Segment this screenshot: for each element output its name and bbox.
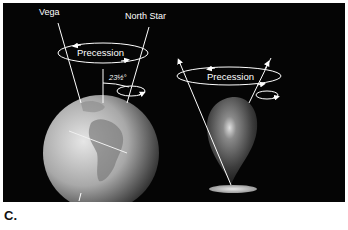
spinning-top-diagram: Precession [177,58,281,193]
vega-label: Vega [39,7,60,17]
spinning-top-body [207,97,257,185]
top-shadow [209,185,257,193]
tilt-angle-label: 23½° [108,73,127,82]
precession-label-earth: Precession [77,47,124,58]
axis-to-vega [58,23,81,103]
earth-precession-diagram: Vega North Star Precession 23½° [39,7,166,202]
axis-to-north-star [127,27,149,103]
north-star-label: North Star [125,11,166,21]
figure-caption: C. [4,208,17,223]
diagram-panel: Vega North Star Precession 23½° Precessi… [3,3,345,202]
precession-label-top: Precession [207,71,254,82]
